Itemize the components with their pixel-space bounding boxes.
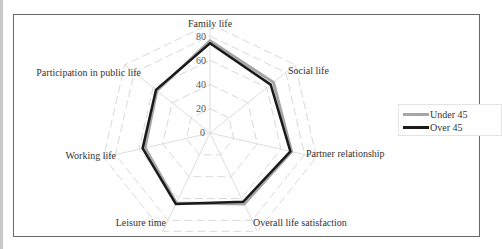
axis-label-partner-relationship: Partner relationship <box>306 148 385 159</box>
legend-swatch-under-45 <box>403 113 429 116</box>
tick-40: 40 <box>196 79 206 90</box>
spoke-line <box>163 133 210 231</box>
spoke-line <box>210 133 257 231</box>
radar-series <box>143 41 292 204</box>
tick-60: 60 <box>196 55 206 66</box>
legend-label-under-45: Under 45 <box>430 109 468 120</box>
axis-label-family-life: Family life <box>188 18 233 29</box>
legend-item-under-45: Under 45 <box>403 108 468 120</box>
legend-swatch-over-45 <box>403 126 429 129</box>
axis-label-working-life: Working life <box>65 150 116 161</box>
tick-20: 20 <box>196 103 206 114</box>
tick-0: 0 <box>200 127 205 138</box>
legend-item-over-45: Over 45 <box>403 121 463 133</box>
axis-label-participation-in-public-life: Participation in public life <box>36 67 141 78</box>
legend-label-over-45: Over 45 <box>430 122 463 133</box>
axis-label-leisure-time: Leisure time <box>116 217 167 228</box>
tick-80: 80 <box>196 31 206 42</box>
chart-legend: Under 45 Over 45 <box>398 104 502 136</box>
axis-label-overall-life-satisfaction: Overall life satisfaction <box>253 217 347 228</box>
axis-label-social-life: Social life <box>288 65 329 76</box>
series-under-45 <box>145 41 292 204</box>
